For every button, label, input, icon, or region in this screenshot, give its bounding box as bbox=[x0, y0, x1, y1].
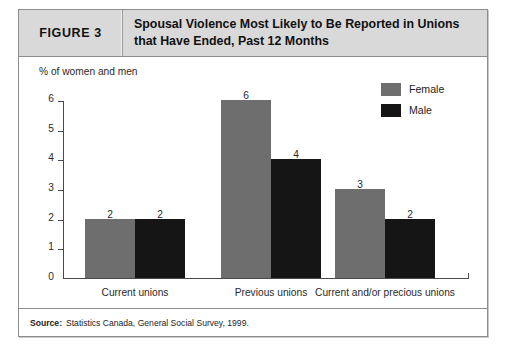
source-text: Statistics Canada, General Social Survey… bbox=[66, 318, 249, 328]
y-tick-label-2: 2 bbox=[48, 213, 54, 223]
bar-label-male-current-andor-previous-unions: 2 bbox=[385, 210, 435, 220]
figure-number: FIGURE 3 bbox=[19, 10, 123, 56]
bar-female-current-unions bbox=[85, 219, 135, 278]
legend-item-female: Female bbox=[381, 81, 444, 98]
source-label: Source: bbox=[30, 318, 62, 328]
bar-male-current-andor-previous-unions bbox=[385, 219, 435, 278]
bar-male-previous-unions bbox=[271, 159, 321, 278]
y-tick-label-1: 1 bbox=[48, 242, 54, 252]
legend-swatch-female-icon bbox=[381, 83, 401, 96]
x-tick-label-current-unions: Current unions bbox=[75, 287, 195, 298]
x-axis-line bbox=[63, 278, 469, 279]
bar-female-previous-unions bbox=[221, 100, 271, 278]
figure-container: FIGURE 3 Spousal Violence Most Likely to… bbox=[18, 9, 488, 337]
x-axis-left-cap bbox=[63, 273, 64, 279]
bar-label-female-previous-unions: 6 bbox=[221, 91, 271, 101]
x-tick-label-current-andor-previous-unions: Current and/or precious unions bbox=[303, 287, 467, 298]
y-tick-label-4: 4 bbox=[48, 153, 54, 163]
chart-area: % of women and men Female Male 6 5 bbox=[19, 57, 487, 309]
figure-source: Source: Statistics Canada, General Socia… bbox=[19, 308, 487, 336]
bar-label-female-current-unions: 2 bbox=[85, 210, 135, 220]
y-tick-label-5: 5 bbox=[48, 124, 54, 134]
plot-region: 6 5 4 3 2 1 0 bbox=[63, 101, 469, 279]
bar-label-female-current-andor-previous-unions: 3 bbox=[335, 180, 385, 190]
y-tick-label-3: 3 bbox=[48, 183, 54, 193]
figure-title: Spousal Violence Most Likely to Be Repor… bbox=[123, 10, 487, 56]
y-tick-label-6: 6 bbox=[48, 94, 54, 104]
bar-male-current-unions bbox=[135, 219, 185, 278]
figure-header: FIGURE 3 Spousal Violence Most Likely to… bbox=[19, 10, 487, 57]
bar-female-current-andor-previous-unions bbox=[335, 189, 385, 278]
y-axis-title: % of women and men bbox=[39, 66, 138, 77]
bar-label-male-current-unions: 2 bbox=[135, 210, 185, 220]
y-tick-label-0: 0 bbox=[48, 272, 54, 282]
bar-label-male-previous-unions: 4 bbox=[271, 150, 321, 160]
x-axis-right-cap bbox=[468, 273, 469, 279]
legend-label-female: Female bbox=[409, 84, 444, 95]
